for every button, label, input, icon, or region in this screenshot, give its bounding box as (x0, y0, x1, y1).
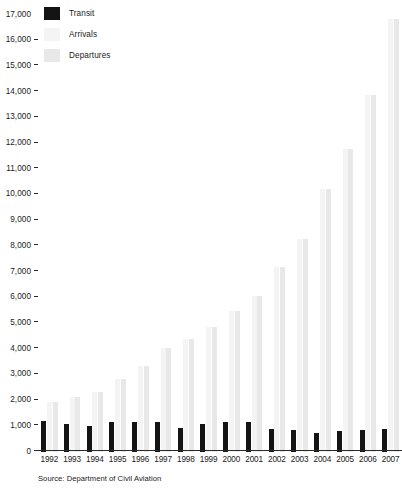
bar-arrivals-2002 (274, 267, 279, 452)
x-axis-label-1993: 1993 (61, 453, 84, 466)
y-axis-tick-label: 14,000 (6, 86, 31, 97)
bar-departures-1994 (98, 392, 103, 452)
bar-transit-2002 (269, 429, 274, 452)
bar-group-2003 (288, 10, 311, 452)
bar-group-2004 (311, 10, 334, 452)
y-axis-tick: 17,000 (0, 9, 38, 20)
bar-departures-1997 (166, 348, 171, 452)
y-axis-tick-label: 16,000 (6, 34, 31, 45)
bar-group-2005 (334, 10, 357, 452)
y-axis-tick-label: 0 (26, 446, 31, 457)
y-axis-tick-label: 5,000 (10, 317, 31, 328)
bar-departures-1992 (53, 402, 58, 452)
bar-arrivals-1995 (115, 379, 120, 452)
bar-group-1994 (84, 10, 107, 452)
bar-transit-1995 (109, 422, 114, 452)
bar-arrivals-2006 (365, 95, 370, 452)
bar-transit-2003 (291, 430, 296, 452)
x-axis-label-1999: 1999 (197, 453, 220, 466)
bar-departures-1999 (212, 327, 217, 452)
bar-departures-2000 (235, 311, 240, 452)
y-axis-tick-label: 11,000 (6, 163, 31, 174)
bar-departures-1993 (75, 397, 80, 452)
y-axis-tick: 0 (0, 446, 38, 457)
x-axis-label-2002: 2002 (266, 453, 289, 466)
y-axis-tick: 16,000 (0, 34, 38, 45)
x-axis-label-1997: 1997 (152, 453, 175, 466)
bar-arrivals-2005 (343, 149, 348, 452)
bar-transit-1994 (87, 426, 92, 452)
y-axis-tick-label: 12,000 (6, 137, 31, 148)
bar-group-1996 (129, 10, 152, 452)
x-axis-label-2005: 2005 (334, 453, 357, 466)
bar-transit-2001 (246, 422, 251, 452)
bar-departures-2002 (280, 267, 285, 452)
x-axis-label-1992: 1992 (38, 453, 61, 466)
bar-group-1998 (175, 10, 198, 452)
bar-departures-2007 (394, 19, 399, 452)
y-axis-tick: 1,000 (0, 420, 38, 431)
bar-series-container (38, 10, 402, 452)
bar-transit-1992 (41, 421, 46, 452)
bar-departures-2006 (371, 95, 376, 452)
bar-arrivals-2000 (229, 311, 234, 452)
bar-arrivals-1998 (183, 339, 188, 452)
bar-arrivals-2007 (388, 19, 393, 452)
bar-departures-2003 (303, 239, 308, 452)
source-note: Source: Department of Civil Aviation (38, 474, 161, 483)
bar-transit-2007 (382, 429, 387, 452)
y-axis-tick-label: 7,000 (10, 266, 31, 277)
bar-transit-2000 (223, 422, 228, 452)
y-axis-tick: 4,000 (0, 343, 38, 354)
y-axis-tick: 12,000 (0, 137, 38, 148)
y-axis-tick-label: 9,000 (10, 214, 31, 225)
x-axis-label-2004: 2004 (311, 453, 334, 466)
bar-group-1997 (152, 10, 175, 452)
bar-arrivals-1992 (47, 402, 52, 452)
y-axis-tick: 7,000 (0, 266, 38, 277)
x-axis-label-2000: 2000 (220, 453, 243, 466)
x-axis-label-2003: 2003 (288, 453, 311, 466)
y-axis-tick: 13,000 (0, 111, 38, 122)
y-axis-tick-label: 17,000 (6, 9, 31, 20)
x-axis-label-1998: 1998 (175, 453, 198, 466)
bar-arrivals-1993 (70, 397, 75, 452)
bar-group-2002 (266, 10, 289, 452)
y-axis-tick: 9,000 (0, 214, 38, 225)
bar-transit-1997 (155, 422, 160, 452)
bar-departures-1998 (189, 339, 194, 452)
y-axis-tick-label: 10,000 (6, 188, 31, 199)
y-axis-tick: 11,000 (0, 163, 38, 174)
bar-group-2000 (220, 10, 243, 452)
bar-arrivals-2004 (320, 189, 325, 452)
bar-departures-1996 (144, 366, 149, 452)
plot-area (38, 10, 402, 451)
y-axis-tick-label: 15,000 (6, 60, 31, 71)
y-axis-tick: 2,000 (0, 394, 38, 405)
y-axis-tick-label: 6,000 (10, 291, 31, 302)
y-axis-tick-label: 3,000 (10, 368, 31, 379)
bar-transit-2006 (360, 430, 365, 452)
bar-group-2001 (243, 10, 266, 452)
y-axis-tick-label: 4,000 (10, 343, 31, 354)
bar-group-1993 (61, 10, 84, 452)
y-axis-tick-label: 2,000 (10, 394, 31, 405)
y-axis-tick: 10,000 (0, 188, 38, 199)
y-axis-tick: 6,000 (0, 291, 38, 302)
bar-departures-2004 (326, 189, 331, 452)
x-axis-label-2001: 2001 (243, 453, 266, 466)
bar-chart: TransitArrivalsDepartures 17,00016,00015… (0, 0, 402, 488)
bar-arrivals-1994 (92, 392, 97, 452)
bar-arrivals-2001 (252, 296, 257, 452)
bar-transit-1998 (178, 428, 183, 452)
bar-arrivals-1997 (161, 348, 166, 452)
bar-group-2006 (357, 10, 380, 452)
bar-transit-2005 (337, 431, 342, 452)
bar-arrivals-1999 (206, 327, 211, 452)
bar-transit-1999 (200, 424, 205, 452)
bar-arrivals-1996 (138, 366, 143, 452)
y-axis-tick: 3,000 (0, 368, 38, 379)
x-axis: 1992199319941995199619971998199920002001… (38, 453, 402, 467)
bar-group-2007 (379, 10, 402, 452)
x-axis-label-1995: 1995 (106, 453, 129, 466)
